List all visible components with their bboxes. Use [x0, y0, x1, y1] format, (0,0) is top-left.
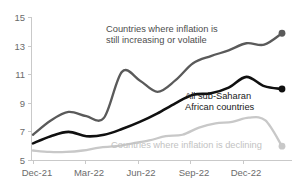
annotation-all-ssa: All sub-Saharan African countries: [185, 91, 255, 112]
x-tick-label-dec-21: Dec-21: [22, 167, 53, 178]
annotation-declining: Countries where inflation is declining: [111, 140, 262, 150]
x-tick-label-sep-22: Sep-22: [179, 167, 210, 178]
inflation-line-chart: 15 13 11 9 7 5 Dec-21 Mar-22 Jun-22: [0, 0, 300, 188]
series-end-marker-0: [279, 30, 286, 37]
x-tick-label-mar-22: Mar-22: [74, 167, 104, 178]
annot-increasing-line1: Countries where inflation is: [106, 24, 218, 34]
annot-all-ssa-line2: African countries: [185, 102, 255, 112]
annot-declining-line1: Countries where inflation is declining: [111, 140, 262, 150]
y-tick-label-15: 15: [14, 12, 25, 23]
y-tick-label-5: 5: [20, 155, 25, 166]
y-axis-labels: 15 13 11 9 7 5: [14, 12, 25, 166]
series-end-marker-2: [279, 143, 286, 150]
x-tick-label-jun-22: Jun-22: [126, 167, 155, 178]
y-tick-label-9: 9: [20, 98, 25, 109]
y-tick-label-11: 11: [15, 69, 25, 80]
chart-plot-area: 15 13 11 9 7 5 Dec-21 Mar-22 Jun-22: [0, 0, 300, 188]
x-tick-label-dec-22: Dec-22: [231, 167, 262, 178]
annot-all-ssa-line1: All sub-Saharan: [185, 91, 251, 101]
y-tick-label-7: 7: [20, 126, 25, 137]
series-line-0: [33, 33, 282, 135]
annot-increasing-line2: still increasing or volatile: [106, 35, 207, 45]
series-end-marker-1: [279, 86, 286, 93]
annotation-increasing: Countries where inflation is still incre…: [106, 24, 218, 45]
y-tick-label-13: 13: [14, 41, 25, 52]
x-axis-labels: Dec-21 Mar-22 Jun-22 Sep-22 Dec-22: [22, 167, 262, 178]
